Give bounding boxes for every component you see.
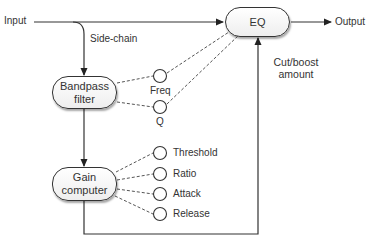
attack-knob-icon: [154, 188, 167, 201]
q-knob-icon: [154, 101, 167, 114]
release-knob-icon: [154, 208, 167, 221]
ratio-label: Ratio: [173, 168, 196, 180]
release-label: Release: [173, 208, 210, 220]
cutboost-line: [84, 38, 258, 234]
q-label: Q: [156, 116, 164, 128]
bandpass-filter-block: Bandpassfilter: [52, 76, 117, 109]
output-label: Output: [335, 16, 365, 28]
input-label: Input: [4, 15, 26, 27]
threshold-label: Threshold: [173, 147, 217, 159]
gain-computer-block: Gaincomputer: [52, 167, 117, 201]
ratio-knob-icon: [154, 168, 167, 181]
freq-knob-icon: [154, 70, 167, 83]
freq-label: Freq: [150, 85, 171, 97]
attack-label: Attack: [173, 188, 201, 200]
threshold-knob-icon: [154, 147, 167, 160]
sidechain-line: [73, 22, 84, 75]
eq-block: EQ: [225, 7, 290, 37]
sidechain-label: Side-chain: [90, 33, 137, 45]
cutboost-label: Cut/boost amount: [268, 56, 324, 80]
